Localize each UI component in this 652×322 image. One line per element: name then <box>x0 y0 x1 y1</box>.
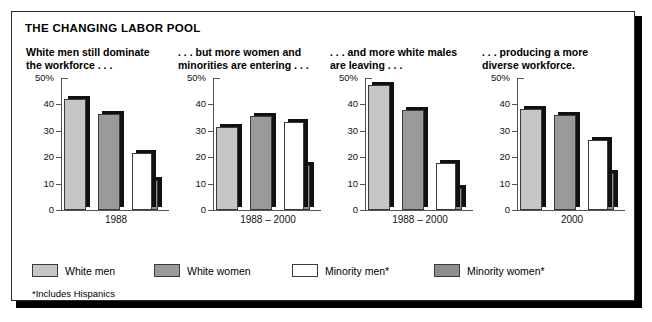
y-tick-mark <box>56 131 61 132</box>
y-tick-mark <box>360 210 365 211</box>
y-tick-label: 0 <box>178 205 206 215</box>
legend-swatch-minmen <box>292 264 318 277</box>
y-tick-mark <box>360 104 365 105</box>
y-tick-mark <box>512 210 517 211</box>
y-tick-label: 40 <box>178 100 206 110</box>
y-tick-label: 0 <box>330 205 358 215</box>
bar-whitemen <box>216 123 244 210</box>
y-tick-mark <box>208 210 213 211</box>
x-category-label: 1988 – 2000 <box>213 214 323 225</box>
legend-label: White men <box>65 265 115 277</box>
y-tick-mark <box>208 157 213 158</box>
bars-container <box>62 78 169 210</box>
bar-face <box>554 115 576 210</box>
y-tick-label: 10 <box>482 179 510 189</box>
panel-heading: . . . producing a more diverse workforce… <box>482 46 630 71</box>
y-tick-mark <box>512 131 517 132</box>
bar-whitewomen <box>402 106 430 210</box>
y-tick-mark <box>360 157 365 158</box>
y-tick-label: 20 <box>482 152 510 162</box>
legend-swatch-minwomen <box>434 264 460 277</box>
bar-minmen <box>284 118 310 210</box>
y-tick-label: 30 <box>178 126 206 136</box>
bar-face <box>402 110 424 210</box>
legend-item-minmen: Minority men* <box>292 264 424 277</box>
legend-label: Minority women* <box>467 265 545 277</box>
panel-heading: . . . but more women and minorities are … <box>178 46 326 71</box>
chart-frame: THE CHANGING LABOR POOL White men still … <box>11 11 635 301</box>
legend-swatch-whitewomen <box>154 264 180 277</box>
y-tick-label: 50% <box>26 73 54 83</box>
y-tick-mark <box>360 131 365 132</box>
bar-whitemen <box>368 81 396 210</box>
bars-container <box>214 78 321 210</box>
legend-item-whitewomen: White women <box>154 264 282 277</box>
plot-area: 50%4030201001988 – 2000 <box>178 78 324 236</box>
y-tick-mark <box>512 157 517 158</box>
bar-minmen <box>436 159 462 210</box>
legend: White menWhite womenMinority men*Minorit… <box>32 264 632 277</box>
y-tick-label: 10 <box>178 179 206 189</box>
chart-panel-1: White men still dominate the workforce .… <box>20 46 172 256</box>
bar-minmen <box>132 149 158 210</box>
y-tick-mark <box>360 184 365 185</box>
y-tick-label: 40 <box>330 100 358 110</box>
bars-container <box>518 78 625 210</box>
bar-face <box>98 114 120 210</box>
y-tick-label: 50% <box>178 73 206 83</box>
chart-panel-3: . . . and more white males are leaving .… <box>324 46 476 256</box>
y-tick-label: 20 <box>178 152 206 162</box>
legend-label: White women <box>187 265 251 277</box>
x-axis <box>365 210 473 211</box>
y-tick-label: 20 <box>330 152 358 162</box>
y-tick-label: 10 <box>330 179 358 189</box>
chart-panel-2: . . . but more women and minorities are … <box>172 46 324 256</box>
bar-face <box>64 99 86 210</box>
bar-whitewomen <box>98 110 126 210</box>
y-tick-mark <box>208 131 213 132</box>
bar-whitewomen <box>554 111 582 210</box>
chart-panel-4: . . . producing a more diverse workforce… <box>476 46 628 256</box>
footnote: *Includes Hispanics <box>32 288 115 299</box>
y-tick-mark <box>56 157 61 158</box>
y-tick-label: 0 <box>482 205 510 215</box>
y-tick-mark <box>512 184 517 185</box>
y-tick-label: 30 <box>26 126 54 136</box>
bar-face <box>284 122 304 210</box>
y-tick-mark <box>208 184 213 185</box>
plot-area: 50%4030201002000 <box>482 78 628 236</box>
y-tick-mark <box>512 104 517 105</box>
y-tick-label: 20 <box>26 152 54 162</box>
bar-whitewomen <box>250 112 278 210</box>
bar-face <box>216 127 238 210</box>
bar-face <box>436 163 456 210</box>
bar-whitemen <box>520 105 548 210</box>
page-title: THE CHANGING LABOR POOL <box>25 22 201 34</box>
y-tick-label: 10 <box>26 179 54 189</box>
legend-swatch-whitemen <box>32 264 58 277</box>
bar-face <box>250 116 272 210</box>
x-axis <box>213 210 321 211</box>
legend-item-whitemen: White men <box>32 264 144 277</box>
y-tick-label: 50% <box>482 73 510 83</box>
y-tick-mark <box>56 184 61 185</box>
x-category-label: 1988 – 2000 <box>365 214 475 225</box>
x-axis <box>517 210 625 211</box>
x-category-label: 1988 <box>61 214 171 225</box>
y-tick-label: 0 <box>26 205 54 215</box>
y-tick-mark <box>56 210 61 211</box>
x-axis <box>61 210 169 211</box>
panel-heading: . . . and more white males are leaving .… <box>330 46 478 71</box>
panel-heading: White men still dominate the workforce .… <box>26 46 174 71</box>
y-tick-label: 40 <box>482 100 510 110</box>
y-tick-label: 30 <box>330 126 358 136</box>
bar-face <box>368 85 390 210</box>
bar-face <box>520 109 542 210</box>
figure-root: THE CHANGING LABOR POOL White men still … <box>0 0 652 322</box>
plot-area: 50%4030201001988 <box>26 78 172 236</box>
panel-row: White men still dominate the workforce .… <box>20 46 628 256</box>
y-tick-mark <box>208 104 213 105</box>
plot-area: 50%4030201001988 – 2000 <box>330 78 476 236</box>
x-category-label: 2000 <box>517 214 627 225</box>
bar-whitemen <box>64 95 92 210</box>
